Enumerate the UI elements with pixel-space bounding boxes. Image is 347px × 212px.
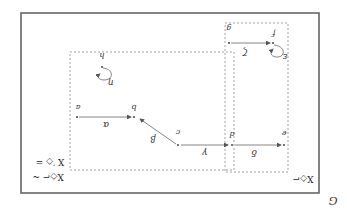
edge-beta	[140, 119, 176, 144]
figure-caption-letter: G	[328, 194, 337, 207]
outer-frame	[21, 13, 319, 193]
node-label-a: a	[75, 103, 80, 112]
node-label-c: c	[175, 128, 180, 137]
edge-label-epsilon: ε	[282, 52, 287, 62]
region-label-left-bottom: X◇⌐ ~	[32, 172, 63, 182]
region-label-right-bottom: X◇⌐	[293, 174, 314, 184]
edge-label-eta: η	[108, 78, 114, 88]
node-label-b: b	[131, 103, 136, 112]
edge-label-gamma: γ	[202, 148, 208, 158]
edge-label-alpha: α	[103, 120, 109, 130]
node-label-d: d	[229, 130, 234, 139]
left-region-box	[70, 52, 234, 170]
edge-label-beta: β	[150, 134, 156, 144]
node-label-g: g	[226, 24, 231, 33]
node-label-f: f	[270, 29, 276, 38]
edge-label-delta: δ	[251, 148, 256, 158]
edge-label-zeta: ζ	[241, 47, 247, 57]
node-label-h: h	[99, 51, 104, 60]
region-label-left-top: X ′◇ =	[36, 157, 65, 167]
loop-epsilon	[271, 45, 283, 57]
node-label-e: e	[281, 129, 286, 138]
diagram-canvas: a b c d e f g h α β γ δ ζ ε η X ′◇ = X◇⌐…	[0, 0, 347, 212]
